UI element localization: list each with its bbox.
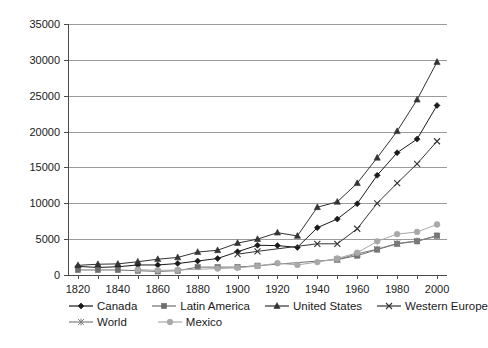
legend-item-canada[interactable]: Canada bbox=[68, 300, 137, 312]
x-tick-mark-1820 bbox=[78, 275, 79, 279]
plot-area: 05000100001500020000250003000035000 1820… bbox=[68, 24, 447, 275]
series-western-europe bbox=[235, 138, 440, 257]
x-minor-tick-1850 bbox=[138, 275, 139, 279]
legend-item-mexico[interactable]: Mexico bbox=[157, 316, 222, 328]
x-tick-mark-1940 bbox=[317, 275, 318, 279]
legend-label: Canada bbox=[97, 300, 137, 312]
x-tick-label-1940: 1940 bbox=[305, 283, 329, 295]
series-canada bbox=[75, 102, 440, 270]
x-tick-label-1880: 1880 bbox=[185, 283, 209, 295]
legend-item-latin-america[interactable]: Latin America bbox=[151, 300, 250, 312]
series-united-states bbox=[75, 59, 440, 268]
x-tick-label-1920: 1920 bbox=[265, 283, 289, 295]
y-tick-label-10000: 10000 bbox=[29, 197, 60, 209]
legend-swatch bbox=[264, 300, 290, 312]
x-tick-mark-2000 bbox=[437, 275, 438, 279]
x-tick-label-1900: 1900 bbox=[225, 283, 249, 295]
x-tick-mark-1960 bbox=[357, 275, 358, 279]
legend-row-primary: CanadaLatin AmericaUnited StatesWestern … bbox=[64, 300, 468, 312]
legend-marker-diamond-icon bbox=[68, 300, 94, 312]
chart-legend: CanadaLatin AmericaUnited StatesWestern … bbox=[64, 300, 468, 328]
x-tick-label-2000: 2000 bbox=[425, 283, 449, 295]
y-tick-label-35000: 35000 bbox=[29, 18, 60, 30]
y-tick-mark-0 bbox=[64, 275, 68, 276]
legend-item-western-europe[interactable]: Western Europe bbox=[376, 300, 488, 312]
x-minor-tick-1930 bbox=[297, 275, 298, 279]
legend-swatch bbox=[376, 300, 402, 312]
x-minor-tick-1970 bbox=[377, 275, 378, 279]
legend-label: World bbox=[97, 316, 127, 328]
x-tick-label-1960: 1960 bbox=[345, 283, 369, 295]
legend-row-secondary: WorldMexico bbox=[64, 316, 468, 328]
series-svg bbox=[68, 24, 447, 275]
legend-marker-triangle-icon bbox=[264, 300, 290, 312]
y-tick-label-25000: 25000 bbox=[29, 90, 60, 102]
legend-swatch bbox=[68, 300, 94, 312]
x-tick-mark-1840 bbox=[118, 275, 119, 279]
legend-marker-cross-icon bbox=[376, 300, 402, 312]
legend-label: Mexico bbox=[186, 316, 222, 328]
y-tick-label-0: 0 bbox=[54, 269, 60, 281]
x-minor-tick-1990 bbox=[417, 275, 418, 279]
x-tick-mark-1980 bbox=[397, 275, 398, 279]
legend-label: Western Europe bbox=[405, 300, 488, 312]
x-tick-mark-1860 bbox=[158, 275, 159, 279]
legend-item-world[interactable]: World bbox=[68, 316, 127, 328]
x-tick-mark-1920 bbox=[277, 275, 278, 279]
x-tick-label-1980: 1980 bbox=[385, 283, 409, 295]
x-tick-mark-1900 bbox=[238, 275, 239, 279]
y-tick-label-5000: 5000 bbox=[36, 233, 60, 245]
legend-swatch bbox=[157, 316, 183, 328]
x-tick-label-1840: 1840 bbox=[106, 283, 130, 295]
series-canvas bbox=[68, 24, 447, 275]
x-tick-mark-1880 bbox=[198, 275, 199, 279]
x-tick-label-1820: 1820 bbox=[66, 283, 90, 295]
legend-marker-circle-icon bbox=[157, 316, 183, 328]
legend-marker-asterisk-icon bbox=[68, 316, 94, 328]
legend-marker-square-icon bbox=[151, 300, 177, 312]
legend-label: United States bbox=[293, 300, 362, 312]
x-tick-label-1860: 1860 bbox=[146, 283, 170, 295]
x-minor-tick-1870 bbox=[178, 275, 179, 279]
x-minor-tick-1890 bbox=[218, 275, 219, 279]
y-tick-label-30000: 30000 bbox=[29, 54, 60, 66]
x-minor-tick-1950 bbox=[337, 275, 338, 279]
legend-swatch bbox=[151, 300, 177, 312]
legend-item-united-states[interactable]: United States bbox=[264, 300, 362, 312]
legend-swatch bbox=[68, 316, 94, 328]
x-minor-tick-1830 bbox=[98, 275, 99, 279]
y-tick-label-15000: 15000 bbox=[29, 161, 60, 173]
y-tick-label-20000: 20000 bbox=[29, 126, 60, 138]
legend-label: Latin America bbox=[180, 300, 250, 312]
x-minor-tick-1910 bbox=[258, 275, 259, 279]
